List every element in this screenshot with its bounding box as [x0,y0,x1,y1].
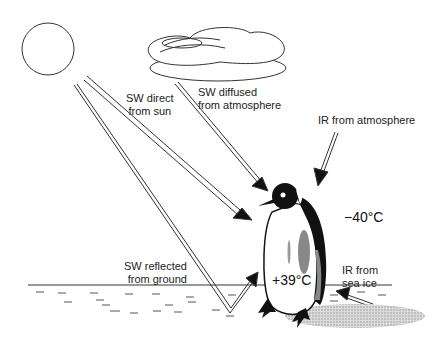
label-line: SW direct [126,92,174,105]
label-sw-diffused: SW diffused from atmosphere [198,86,281,112]
label-line: from sun [126,105,174,118]
sun-icon [22,23,74,75]
label-line: sea ice [342,277,378,290]
label-line: SW diffused [198,86,281,99]
ir-atmosphere-arrow [314,132,338,186]
energy-flow-diagram [0,0,430,348]
cloud-icon [148,28,286,81]
ir-sea-ice-arrow [336,287,373,307]
label-line: from atmosphere [198,99,281,112]
body-temperature: +39°C [272,272,311,288]
label-line: from ground [124,273,187,286]
air-temperature: −40°C [344,209,383,225]
label-sw-reflected: SW reflected from ground [124,260,187,286]
label-line: SW reflected [124,260,187,273]
label-line: IR from [342,264,378,277]
label-sw-direct: SW direct from sun [126,92,174,118]
label-ir-atmosphere: IR from atmosphere [318,114,415,127]
label-ir-sea-ice: IR from sea ice [342,264,378,290]
